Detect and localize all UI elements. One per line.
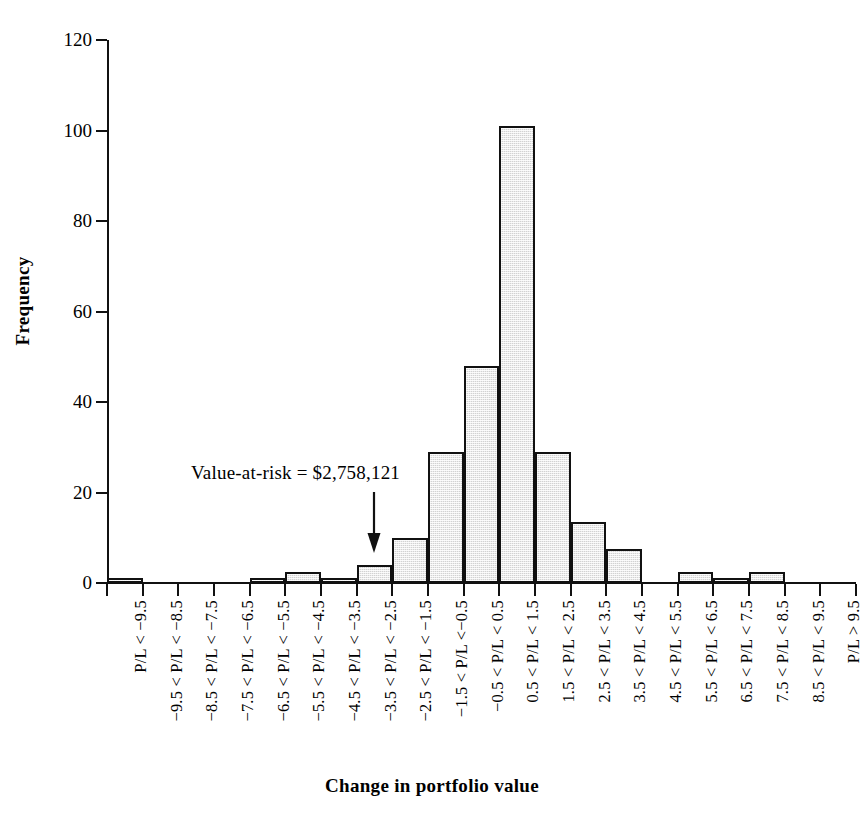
x-axis-tick bbox=[177, 584, 179, 596]
x-axis-tick-label: −8.5 < P/L < −7.5 bbox=[203, 600, 220, 770]
y-axis-tick bbox=[96, 130, 107, 132]
histogram-figure: Frequency 020406080100120 P/L < −9.5−9.5… bbox=[0, 0, 864, 821]
y-axis-tick bbox=[96, 39, 107, 41]
histogram-bar bbox=[606, 549, 642, 583]
x-axis-tick bbox=[249, 584, 251, 596]
x-axis-tick bbox=[570, 584, 572, 596]
x-axis-tick-label: 8.5 < P/L < 9.5 bbox=[810, 600, 827, 770]
histogram-bar bbox=[464, 366, 500, 583]
x-axis-tick-label: 1.5 < P/L < 2.5 bbox=[560, 600, 577, 770]
x-axis-tick-label: 2.5 < P/L < 3.5 bbox=[596, 600, 613, 770]
x-axis-tick-label: −3.5 < P/L < −2.5 bbox=[382, 600, 399, 770]
histogram-bar bbox=[392, 538, 428, 583]
x-axis-tick bbox=[784, 584, 786, 596]
y-axis-tick-label: 40 bbox=[30, 392, 92, 411]
x-axis-tick-label: 4.5 < P/L < 5.5 bbox=[667, 600, 684, 770]
x-axis-tick-label: P/L > 9.5 bbox=[845, 600, 862, 770]
histogram-bar bbox=[107, 578, 143, 583]
histogram-bar bbox=[749, 572, 785, 583]
x-axis-tick bbox=[284, 584, 286, 596]
x-axis-tick bbox=[356, 584, 358, 596]
histogram-bar bbox=[678, 572, 714, 583]
x-axis-tick bbox=[463, 584, 465, 596]
x-axis-tick bbox=[748, 584, 750, 596]
y-axis-tick-label: 120 bbox=[30, 30, 92, 49]
x-axis-tick-label: −9.5 < P/L < −8.5 bbox=[168, 600, 185, 770]
histogram-bar bbox=[535, 452, 571, 583]
x-axis-tick-label: 0.5 < P/L < 1.5 bbox=[524, 600, 541, 770]
y-axis-tick-label: 80 bbox=[30, 211, 92, 230]
x-axis-tick-label: 5.5 < P/L < 6.5 bbox=[703, 600, 720, 770]
x-axis-tick-label: −0.5 < P/L < 0.5 bbox=[489, 600, 506, 770]
y-axis-tick-label: 60 bbox=[30, 302, 92, 321]
y-axis-tick bbox=[96, 311, 107, 313]
x-axis-tick-label: −7.5 < P/L < −6.5 bbox=[239, 600, 256, 770]
x-axis-tick-label: P/L < −9.5 bbox=[132, 600, 149, 770]
x-axis-tick bbox=[534, 584, 536, 596]
histogram-bar bbox=[499, 126, 535, 583]
y-axis-tick bbox=[96, 401, 107, 403]
y-axis-line bbox=[107, 40, 109, 584]
x-axis-tick bbox=[605, 584, 607, 596]
x-axis-tick-label: 6.5 < P/L < 7.5 bbox=[738, 600, 755, 770]
x-axis-tick-label: −2.5 < P/L < −1.5 bbox=[417, 600, 434, 770]
histogram-bar bbox=[571, 522, 607, 583]
histogram-bar bbox=[321, 578, 357, 583]
x-axis-tick bbox=[855, 584, 857, 596]
x-axis-tick bbox=[427, 584, 429, 596]
y-axis-tick-label: 0 bbox=[30, 573, 92, 592]
histogram-bar bbox=[250, 578, 286, 583]
x-axis-tick bbox=[641, 584, 643, 596]
x-axis-title: Change in portfolio value bbox=[0, 775, 864, 797]
x-axis-tick-label: −6.5 < P/L < −5.5 bbox=[275, 600, 292, 770]
x-axis-tick bbox=[498, 584, 500, 596]
down-arrow-icon bbox=[366, 492, 382, 554]
histogram-bar bbox=[285, 572, 321, 583]
x-axis-tick-label: 7.5 < P/L < 8.5 bbox=[774, 600, 791, 770]
x-axis-tick-label: −1.5 < P/L <−0.5 bbox=[453, 600, 470, 770]
x-axis-tick-label: −5.5 < P/L < −4.5 bbox=[310, 600, 327, 770]
y-axis-tick bbox=[96, 220, 107, 222]
y-axis-tick-label: 20 bbox=[30, 483, 92, 502]
x-axis-tick bbox=[142, 584, 144, 596]
histogram-bar bbox=[357, 565, 393, 583]
x-axis-tick bbox=[106, 584, 108, 596]
histogram-bar bbox=[428, 452, 464, 583]
histogram-bar bbox=[713, 578, 749, 583]
y-axis-tick-label: 100 bbox=[30, 121, 92, 140]
x-axis-tick bbox=[391, 584, 393, 596]
x-axis-tick bbox=[712, 584, 714, 596]
x-axis-tick bbox=[320, 584, 322, 596]
x-axis-tick-label: −4.5 < P/L < −3.5 bbox=[346, 600, 363, 770]
x-axis-tick bbox=[819, 584, 821, 596]
y-axis-tick bbox=[96, 492, 107, 494]
x-axis-tick bbox=[677, 584, 679, 596]
value-at-risk-annotation-label: Value-at-risk = $2,758,121 bbox=[191, 462, 400, 484]
x-axis-tick-label: 3.5 < P/L < 4.5 bbox=[631, 600, 648, 770]
x-axis-tick bbox=[213, 584, 215, 596]
